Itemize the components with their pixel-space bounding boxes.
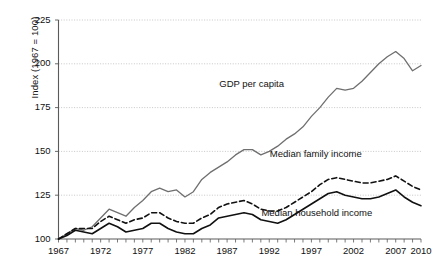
x-tick-label: 2002: [334, 245, 374, 256]
x-tick-label: 1967: [39, 245, 79, 256]
y-tick-label: 100: [21, 233, 51, 244]
axis-lines: [59, 20, 422, 239]
y-tick-label: 150: [21, 145, 51, 156]
x-tick-label: 1972: [81, 245, 121, 256]
x-tick-label: 1992: [249, 245, 289, 256]
x-tick-label: 1997: [291, 245, 331, 256]
x-tick-label: 2010: [401, 245, 441, 256]
series-label-1: Median family income: [270, 148, 362, 159]
x-tick-label: 1987: [207, 245, 247, 256]
series-label-2: Median household income: [261, 207, 372, 218]
x-tick-label: 1977: [123, 245, 163, 256]
axis-line: [59, 20, 422, 239]
x-tick-label: 1982: [165, 245, 205, 256]
y-tick-label: 200: [21, 57, 51, 68]
y-tick-label: 175: [21, 101, 51, 112]
chart-container: Index (1967 = 100) 100125150175200225 19…: [0, 0, 441, 270]
y-tick-label: 125: [21, 189, 51, 200]
y-tick-label: 225: [21, 14, 51, 25]
chart-plot-area: [0, 0, 441, 270]
gridlines: [59, 20, 422, 195]
series-label-0: GDP per capita: [219, 78, 284, 89]
